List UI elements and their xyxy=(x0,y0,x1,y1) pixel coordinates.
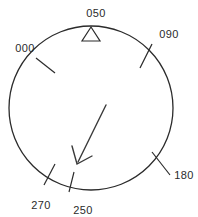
pointer-shaft xyxy=(78,105,106,162)
tick-180 xyxy=(152,152,170,175)
index-triangle-icon xyxy=(82,27,100,41)
tick-000 xyxy=(36,58,55,73)
dial-label-250: 250 xyxy=(73,204,93,216)
tick-270 xyxy=(44,164,55,185)
compass-dial-canvas: 000 050 090 180 270 250 xyxy=(0,0,198,217)
dial-label-050: 050 xyxy=(86,7,106,19)
dial-label-180: 180 xyxy=(174,169,194,181)
dial-label-090: 090 xyxy=(159,28,179,40)
tick-250 xyxy=(69,172,74,192)
dial-label-270: 270 xyxy=(31,199,51,211)
dial-label-000: 000 xyxy=(15,42,35,54)
compass-heading-dial: 000 050 090 180 270 250 xyxy=(0,0,198,217)
